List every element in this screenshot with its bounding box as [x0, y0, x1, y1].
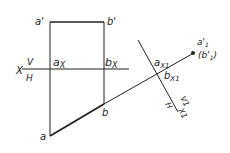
label-h: H — [26, 73, 33, 83]
label-ax1: aX1 — [154, 57, 169, 70]
label-a: a — [40, 131, 46, 142]
label-b: b — [102, 107, 108, 118]
label-a-prime: a' — [35, 16, 44, 27]
label-a1-prime: a'1 — [197, 37, 209, 48]
label-v: V — [27, 57, 34, 67]
label-bx: bX — [105, 56, 118, 70]
point-a1-prime — [191, 51, 195, 55]
label-b-prime: b' — [107, 16, 116, 27]
label-x1: X1 — [176, 106, 189, 120]
line-a-b — [50, 104, 104, 136]
label-x: X — [15, 65, 24, 76]
diagram-svg: a' b' X V H aX bX a b a'1 (b'1) aX1 bX1 … — [0, 0, 230, 153]
label-bx1: bX1 — [164, 70, 180, 83]
label-b1-prime: (b'1) — [198, 50, 217, 61]
label-h1: H — [163, 101, 174, 111]
projection-diagram: a' b' X V H aX bX a b a'1 (b'1) aX1 bX1 … — [0, 0, 230, 153]
label-ax: aX — [53, 56, 66, 70]
